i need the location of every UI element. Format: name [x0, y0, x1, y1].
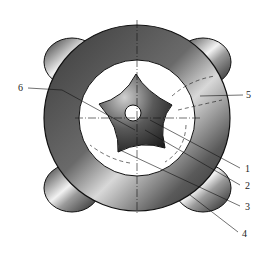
- label-4: 4: [242, 228, 247, 239]
- label-3: 3: [245, 201, 250, 212]
- label-6: 6: [18, 82, 23, 93]
- label-2: 2: [245, 180, 250, 191]
- label-1: 1: [245, 163, 250, 174]
- pump-diagram: 1 2 3 4 5 6: [0, 0, 269, 259]
- diagram-canvas: 1 2 3 4 5 6: [0, 0, 269, 259]
- label-5: 5: [246, 89, 251, 100]
